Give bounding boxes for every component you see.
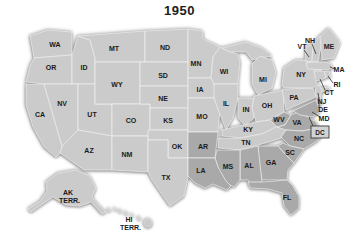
callout-label-ri: RI — [334, 81, 341, 88]
state-label-ne: NE — [158, 95, 168, 102]
state-label-wv: WV — [273, 116, 285, 123]
hawaii-territory-island-0 — [107, 208, 110, 211]
hawaii-territory-label-1: TERR. — [120, 224, 141, 231]
state-label-id: ID — [81, 64, 88, 71]
state-label-wy: WY — [111, 81, 123, 88]
state-label-ar: AR — [198, 143, 208, 150]
state-label-nc: NC — [294, 135, 304, 142]
callout-label-de: DE — [318, 106, 328, 113]
alaska-territory-label-0: AK — [63, 189, 73, 196]
state-label-wi: WI — [220, 68, 229, 75]
state-label-mi: MI — [259, 76, 267, 83]
state-label-nd: ND — [160, 44, 170, 51]
state-label-ga: GA — [266, 159, 277, 166]
map-figure: 1950 WAORCAIDNVUTAZMTWYCONMNDSDNEKSOKTXM… — [0, 0, 359, 244]
hawaii-territory-island-6 — [144, 219, 152, 227]
state-label-la: LA — [196, 167, 205, 174]
state-label-mt: MT — [109, 45, 120, 52]
state-label-oh: OH — [262, 102, 273, 109]
callout-label-vt: VT — [298, 43, 308, 50]
alaska-territory-label-1: TERR. — [59, 197, 80, 204]
state-ma — [306, 62, 333, 70]
state-label-tx: TX — [162, 174, 171, 181]
callout-label-ct: CT — [324, 89, 334, 96]
state-label-al: AL — [244, 162, 254, 169]
state-label-ut: UT — [87, 111, 97, 118]
state-label-nm: NM — [122, 151, 133, 158]
state-fl — [248, 180, 299, 215]
state-label-sc: SC — [285, 149, 295, 156]
state-label-me: ME — [324, 43, 335, 50]
state-label-va: VA — [292, 119, 301, 126]
state-label-ks: KS — [163, 117, 173, 124]
callout-label-ma: MA — [334, 66, 345, 73]
state-label-ky: KY — [243, 126, 253, 133]
state-label-az: AZ — [84, 147, 94, 154]
dc-label: DC — [315, 129, 325, 136]
state-label-in: IN — [243, 106, 250, 113]
state-label-ca: CA — [35, 111, 45, 118]
state-label-pa: PA — [289, 94, 298, 101]
state-label-ia: IA — [197, 86, 204, 93]
state-label-sd: SD — [158, 72, 168, 79]
state-label-mn: MN — [191, 60, 202, 67]
state-label-ms: MS — [223, 163, 234, 170]
state-label-il: IL — [223, 100, 230, 107]
state-label-ny: NY — [296, 71, 306, 78]
state-label-wa: WA — [49, 41, 60, 48]
state-label-nv: NV — [57, 100, 67, 107]
callout-label-nh: NH — [305, 37, 315, 44]
hawaii-territory-label-0: HI — [126, 216, 133, 223]
state-label-mo: MO — [196, 113, 208, 120]
state-label-or: OR — [46, 64, 57, 71]
state-label-fl: FL — [283, 194, 292, 201]
hawaii-territory-island-1 — [114, 208, 116, 210]
state-label-ok: OK — [172, 143, 183, 150]
callout-label-md: MD — [319, 115, 330, 122]
hawaii-territory-island-2 — [119, 210, 122, 213]
state-label-co: CO — [126, 117, 137, 124]
state-label-tn: TN — [241, 139, 250, 146]
hawaii-territory-island-5 — [137, 216, 140, 219]
hawaii-territory-island-3 — [125, 212, 128, 215]
us-map-1950: WAORCAIDNVUTAZMTWYCONMNDSDNEKSOKTXMNIAMO… — [0, 0, 359, 244]
